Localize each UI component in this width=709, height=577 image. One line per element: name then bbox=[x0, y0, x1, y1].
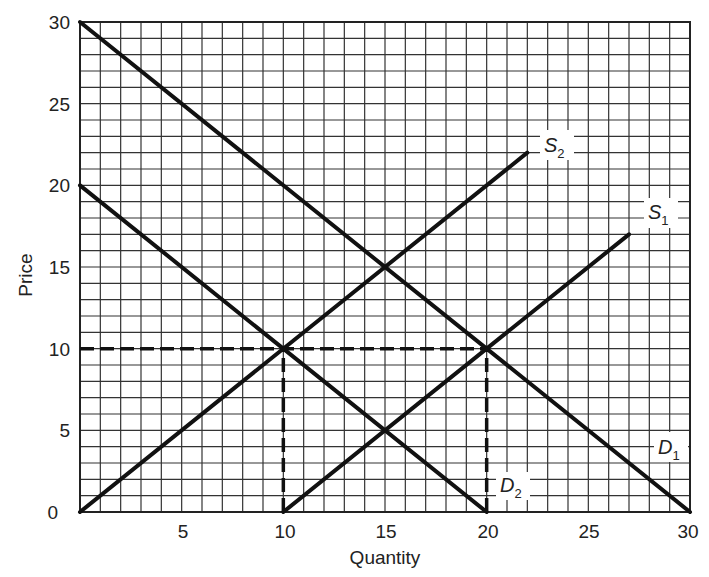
x-axis-label: Quantity bbox=[350, 547, 421, 568]
x-tick-20: 20 bbox=[477, 521, 498, 542]
label-d1: D1 bbox=[654, 432, 688, 463]
label-s1: S1 bbox=[644, 198, 678, 228]
y-tick-5: 5 bbox=[59, 420, 70, 441]
x-tick-5: 5 bbox=[178, 521, 189, 542]
y-tick-25: 25 bbox=[49, 94, 70, 115]
y-axis-label: Price bbox=[15, 253, 36, 296]
x-tick-30: 30 bbox=[677, 521, 698, 542]
y-tick-10: 10 bbox=[49, 339, 70, 360]
label-s2: S2 bbox=[540, 130, 574, 161]
x-tick-10: 10 bbox=[274, 521, 295, 542]
y-tick-20: 20 bbox=[49, 175, 70, 196]
label-d2: D2 bbox=[496, 472, 530, 501]
x-tick-25: 25 bbox=[578, 521, 599, 542]
y-tick-30: 30 bbox=[49, 12, 70, 33]
supply-demand-chart: 0 5 10 15 20 25 30 5 10 15 20 25 30 Quan… bbox=[0, 0, 709, 577]
curve-s1 bbox=[283, 234, 629, 512]
y-tick-15: 15 bbox=[49, 257, 70, 278]
x-tick-15: 15 bbox=[375, 521, 396, 542]
y-tick-0: 0 bbox=[47, 502, 58, 523]
